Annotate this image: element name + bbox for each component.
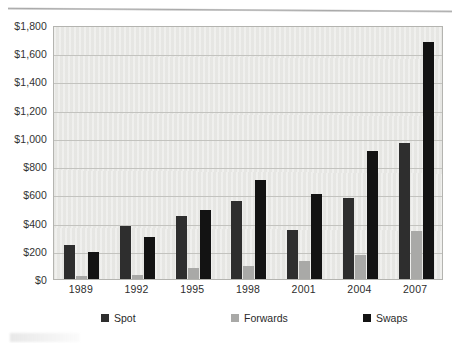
bar-forwards-1989: [76, 276, 87, 279]
y-axis-tick-label: $1,800: [0, 20, 47, 32]
bar-swaps-1992: [144, 237, 155, 279]
y-axis-tick-label: $200: [0, 246, 47, 258]
bar-spot-1998: [231, 201, 242, 279]
x-axis-tick-label: 2007: [403, 283, 427, 295]
y-axis-tick-label: $800: [0, 161, 47, 173]
bar-spot-1989: [64, 245, 75, 279]
legend-item-spot[interactable]: Spot: [101, 312, 136, 324]
y-axis-tick-label: $1,000: [0, 133, 47, 145]
legend-swatch-icon: [101, 314, 109, 322]
x-axis-tick-label: 2001: [292, 283, 316, 295]
y-axis-tick-label: $600: [0, 189, 47, 201]
x-axis-tick-label: 1998: [236, 283, 260, 295]
x-axis-labels: 1989199219951998200120042007: [53, 283, 443, 299]
x-axis-tick-label: 1989: [69, 283, 93, 295]
bar-swaps-1995: [200, 210, 211, 279]
bar-group-1998: [221, 27, 277, 279]
bar-group-1989: [54, 27, 110, 279]
bar-swaps-2007: [423, 42, 434, 279]
bar-spot-1995: [176, 216, 187, 280]
y-axis-tick-label: $400: [0, 218, 47, 230]
legend-item-swaps[interactable]: Swaps: [363, 312, 408, 324]
bar-forwards-2004: [355, 255, 366, 279]
bar-swaps-2004: [367, 151, 378, 279]
bar-spot-2004: [343, 198, 354, 279]
bar-group-1995: [165, 27, 221, 279]
bar-forwards-1992: [132, 275, 143, 279]
bar-forwards-1995: [188, 268, 199, 279]
bar-chart: $0$200$400$600$800$1,000$1,200$1,400$1,6…: [0, 0, 458, 343]
bar-group-2007: [388, 27, 444, 279]
scan-smudge: [10, 333, 80, 342]
bar-forwards-2001: [299, 261, 310, 279]
bar-spot-1992: [120, 226, 131, 279]
bar-swaps-2001: [311, 194, 322, 279]
legend-item-forwards[interactable]: Forwards: [231, 312, 288, 324]
legend-label: Spot: [114, 312, 136, 324]
bar-swaps-1998: [255, 180, 266, 279]
y-axis-tick-label: $1,400: [0, 76, 47, 88]
bar-spot-2001: [287, 230, 298, 279]
chart-legend: SpotForwardsSwaps: [53, 312, 443, 330]
legend-label: Forwards: [244, 312, 288, 324]
legend-swatch-icon: [231, 314, 239, 322]
bar-swaps-1989: [88, 252, 99, 279]
legend-swatch-icon: [363, 314, 371, 322]
bar-group-2004: [333, 27, 389, 279]
bar-spot-2007: [399, 143, 410, 279]
bar-forwards-1998: [243, 266, 254, 279]
y-axis-tick-label: $1,600: [0, 48, 47, 60]
bar-group-2001: [277, 27, 333, 279]
y-axis-tick-label: $0: [0, 274, 47, 286]
bar-group-1992: [110, 27, 166, 279]
legend-label: Swaps: [376, 312, 408, 324]
y-axis-labels: $0$200$400$600$800$1,000$1,200$1,400$1,6…: [0, 26, 49, 280]
y-axis-tick-label: $1,200: [0, 105, 47, 117]
x-axis-tick-label: 2004: [347, 283, 371, 295]
x-axis-tick-label: 1992: [124, 283, 148, 295]
x-axis-tick-label: 1995: [180, 283, 204, 295]
bar-forwards-2007: [411, 231, 422, 279]
plot-area: [53, 26, 443, 280]
